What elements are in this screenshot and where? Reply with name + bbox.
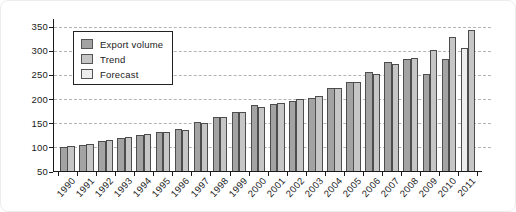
y-axis-tick-150 — [49, 123, 53, 124]
x-axis-tick-2005 — [344, 172, 345, 176]
y-axis-label-250: 250 — [1, 69, 48, 80]
legend-item-trend: Trend — [81, 53, 165, 65]
x-axis-tick-2007 — [382, 172, 383, 176]
x-axis-tick-1993 — [115, 172, 116, 176]
bar-trend-1993 — [125, 137, 132, 172]
x-axis-line — [53, 171, 482, 172]
x-axis-tick-1996 — [172, 172, 173, 176]
x-axis-tick-1992 — [96, 172, 97, 176]
y-axis-label-350: 350 — [1, 21, 48, 32]
trend-swatch-icon — [81, 54, 93, 64]
export-volume-bar-chart: Export volume Trend Forecast 50100150200… — [0, 0, 516, 212]
export-volume-swatch-icon — [81, 39, 93, 49]
bar-trend-2011 — [468, 30, 475, 172]
bar-trend-2004 — [334, 88, 341, 172]
bar-trend-2007 — [392, 64, 399, 172]
chart-legend: Export volume Trend Forecast — [73, 31, 173, 85]
x-axis-tick-2008 — [401, 172, 402, 176]
bar-trend-1997 — [201, 123, 208, 172]
bar-trend-1991 — [86, 144, 93, 172]
bar-trend-2005 — [353, 82, 360, 172]
bar-trend-2002 — [296, 99, 303, 172]
x-axis-tick-2004 — [325, 172, 326, 176]
x-axis-tick-2006 — [363, 172, 364, 176]
bar-trend-2000 — [258, 107, 265, 172]
x-axis-tick-2010 — [439, 172, 440, 176]
bar-trend-2001 — [277, 103, 284, 172]
bar-trend-1990 — [67, 146, 74, 172]
x-axis-tick-2009 — [420, 172, 421, 176]
bar-trend-2008 — [411, 58, 418, 172]
y-axis-line — [53, 19, 54, 172]
x-axis-tick-2011 — [458, 172, 459, 176]
y-axis-tick-300 — [49, 51, 53, 52]
x-axis-tick-2000 — [249, 172, 250, 176]
bar-trend-2010 — [449, 37, 456, 172]
y-axis-tick-350 — [49, 27, 53, 28]
y-axis-label-50: 50 — [1, 166, 48, 177]
x-axis-tick-1999 — [230, 172, 231, 176]
legend-item-forecast: Forecast — [81, 68, 165, 80]
x-axis-tick-1997 — [191, 172, 192, 176]
y-axis-label-300: 300 — [1, 45, 48, 56]
y-axis-label-100: 100 — [1, 142, 48, 153]
bar-trend-2006 — [373, 74, 380, 172]
y-axis-tick-200 — [49, 99, 53, 100]
bar-trend-1992 — [106, 140, 113, 172]
bar-trend-1994 — [144, 134, 151, 172]
forecast-swatch-icon — [81, 69, 93, 79]
x-axis-tick-1990 — [58, 172, 59, 176]
y-axis-tick-100 — [49, 147, 53, 148]
plot-area: Export volume Trend Forecast 50100150200… — [1, 1, 516, 212]
bar-trend-2009 — [430, 50, 437, 172]
legend-label: Export volume — [100, 39, 163, 50]
x-axis-tick-end — [477, 172, 478, 176]
legend-label: Forecast — [100, 69, 139, 80]
y-axis-label-200: 200 — [1, 94, 48, 105]
x-axis-tick-2002 — [287, 172, 288, 176]
bar-trend-2003 — [315, 96, 322, 172]
legend-label: Trend — [100, 54, 125, 65]
bar-trend-1996 — [182, 130, 189, 172]
y-axis-label-150: 150 — [1, 118, 48, 129]
x-axis-tick-1995 — [153, 172, 154, 176]
x-axis-tick-2003 — [306, 172, 307, 176]
bar-trend-1999 — [239, 112, 246, 172]
x-axis-tick-2001 — [268, 172, 269, 176]
bar-trend-1998 — [220, 117, 227, 172]
x-axis-tick-1994 — [134, 172, 135, 176]
x-axis-tick-1991 — [77, 172, 78, 176]
bar-trend-1995 — [163, 132, 170, 172]
y-axis-tick-250 — [49, 75, 53, 76]
x-axis-tick-1998 — [210, 172, 211, 176]
legend-item-export-volume: Export volume — [81, 38, 165, 50]
gridline-350 — [54, 27, 491, 28]
